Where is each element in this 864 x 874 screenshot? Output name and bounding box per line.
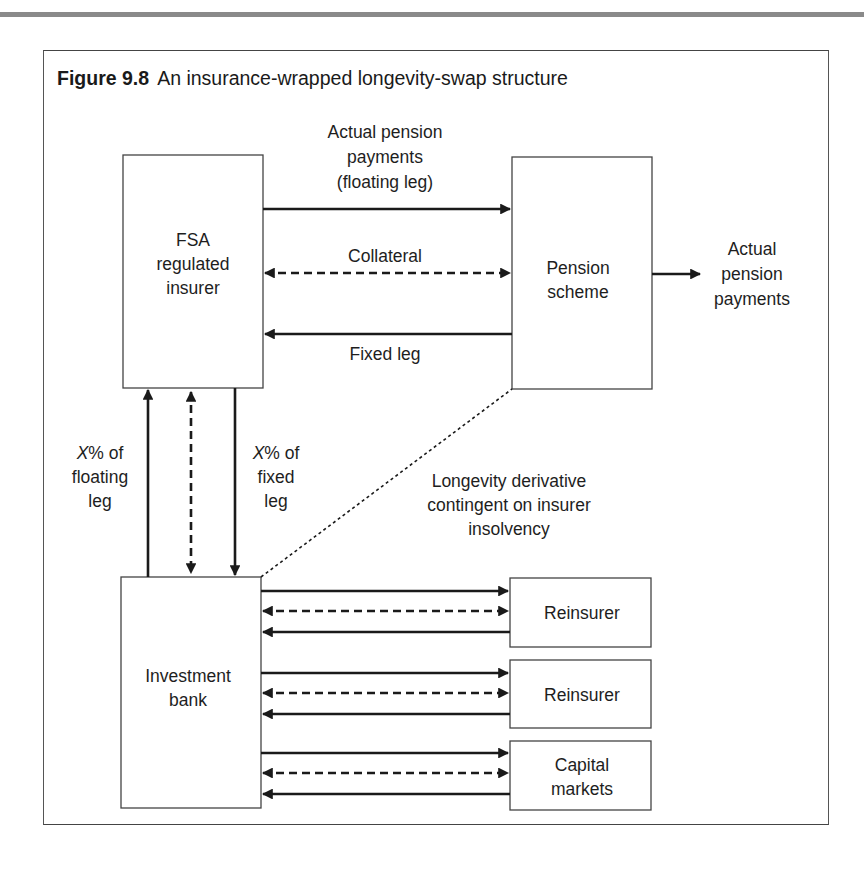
x-fixed-label-line3: leg [264, 491, 287, 511]
derivative-label-line2: contingent on insurer [427, 495, 591, 515]
pension-payments-label-line2: pension [721, 264, 782, 284]
floating-leg-label-line2: payments [347, 147, 423, 167]
pension-scheme-label-line2: scheme [547, 282, 608, 302]
capital-markets-box: Capital markets [510, 741, 651, 810]
derivative-label-line1: Longevity derivative [432, 471, 587, 491]
reinsurer-1-arrows [261, 591, 510, 632]
pension-payments-arrow: Actual pension payments [652, 239, 790, 309]
x-floating-label-line1: X% of [76, 443, 124, 463]
investment-bank-box: Investment bank [121, 577, 261, 808]
reinsurer-2-arrows [261, 673, 510, 714]
pension-scheme-label-line1: Pension [546, 258, 609, 278]
investment-bank-label-line2: bank [169, 690, 207, 710]
capital-markets-label-line1: Capital [555, 755, 609, 775]
capital-markets-label-line2: markets [551, 779, 613, 799]
pension-payments-label-line1: Actual [728, 239, 777, 259]
insurer-box: FSA regulated insurer [123, 155, 263, 388]
x-fixed-label-line2: fixed [258, 467, 295, 487]
fixed-leg-label: Fixed leg [349, 344, 420, 364]
reinsurer-2-box: Reinsurer [510, 660, 651, 728]
fixed-leg-arrow: Fixed leg [265, 334, 512, 364]
investment-bank-label-line1: Investment [145, 666, 231, 686]
collateral-label: Collateral [348, 246, 422, 266]
diagram-canvas: FSA regulated insurer Pension scheme Inv… [0, 0, 864, 874]
reinsurer-2-label: Reinsurer [544, 685, 620, 705]
x-floating-leg-arrow: X% of floating leg [72, 390, 148, 577]
reinsurer-1-box: Reinsurer [510, 578, 651, 647]
insurer-label-line2: regulated [157, 254, 230, 274]
floating-leg-label-line1: Actual pension [328, 122, 443, 142]
insurer-label-line3: insurer [166, 278, 220, 298]
floating-leg-label-line3: (floating leg) [337, 172, 433, 192]
x-fixed-label-line1: X% of [252, 443, 300, 463]
reinsurer-1-label: Reinsurer [544, 603, 620, 623]
pension-scheme-box: Pension scheme [512, 157, 652, 389]
x-floating-label-line2: floating [72, 467, 128, 487]
longevity-derivative-link: Longevity derivative contingent on insur… [261, 389, 591, 577]
x-floating-label-line3: leg [88, 491, 111, 511]
capital-markets-arrows [261, 753, 510, 794]
insurer-label-line1: FSA [176, 230, 210, 250]
floating-leg-arrow: Actual pension payments (floating leg) [263, 122, 510, 209]
pension-payments-label-line3: payments [714, 289, 790, 309]
derivative-label-line3: insolvency [468, 519, 550, 539]
collateral-arrow: Collateral [265, 246, 510, 273]
x-fixed-leg-arrow: X% of fixed leg [235, 388, 299, 575]
